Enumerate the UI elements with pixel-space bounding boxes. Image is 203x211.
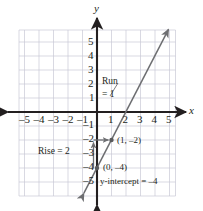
x-axis-label: x (189, 105, 194, 116)
x-tick-label-5: 5 (166, 114, 172, 125)
rise-annotation: Rise = 2 (38, 147, 70, 157)
x-tick-label-neg2: –2 (63, 114, 74, 125)
x-tick-label-neg3: –3 (48, 114, 59, 125)
y-tick-label-4: 4 (88, 50, 94, 61)
y-tick-label-1: 1 (89, 92, 95, 103)
y-tick-label-neg1: –1 (83, 119, 94, 130)
point-1-neg2 (109, 138, 113, 142)
x-tick-label-2: 2 (123, 114, 129, 125)
y-tick-label-2: 2 (88, 78, 94, 89)
y-axis-label: y (94, 3, 99, 14)
y-tick-label-5: 5 (88, 36, 94, 47)
graph-figure: x y –5 –4 –3 –2 –1 1 2 3 4 5 5 4 3 2 1 –… (0, 0, 203, 211)
x-tick-label-4: 4 (152, 114, 158, 125)
y-tick-label-neg3: –3 (83, 147, 94, 158)
y-tick-label-neg2: –2 (83, 133, 94, 144)
x-tick-label-3: 3 (137, 114, 143, 125)
x-tick-label-1: 1 (108, 114, 114, 125)
x-tick-label-neg5: –5 (19, 114, 30, 125)
point-0-neg4 (95, 166, 99, 170)
run-annotation-line2: = 1 (102, 90, 114, 100)
run-annotation-line1: Run (102, 77, 118, 87)
point-label-0-neg4: (0, –4) (103, 163, 127, 172)
y-intercept-annotation: y-intercept = –4 (100, 177, 158, 186)
y-tick-label-neg4: –4 (83, 161, 94, 172)
y-tick-label-neg5: –5 (83, 175, 94, 186)
x-tick-label-neg4: –4 (34, 114, 45, 125)
y-tick-label-3: 3 (88, 64, 94, 75)
point-label-1-neg2: (1, –2) (117, 136, 141, 145)
